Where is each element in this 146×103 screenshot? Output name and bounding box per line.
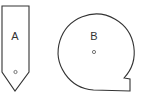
shape-b: B <box>58 14 134 91</box>
shape-b-label: B <box>90 30 97 42</box>
shape-a-pivot-hole <box>14 70 17 73</box>
diagram-canvas: A B <box>0 0 146 103</box>
shape-a: A <box>2 6 29 91</box>
shape-a-outline <box>2 6 29 91</box>
shape-a-label: A <box>11 30 19 42</box>
shape-b-outline <box>58 14 134 91</box>
shape-b-pivot-hole <box>92 50 95 53</box>
